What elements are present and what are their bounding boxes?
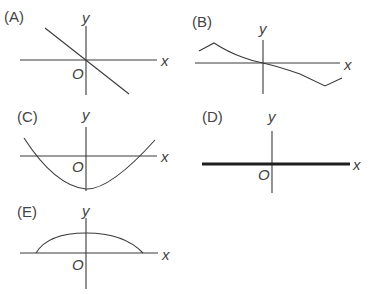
graph-c-label: (C) <box>17 108 38 125</box>
graph-c-origin-label: O <box>72 158 84 175</box>
graph-d-y-label: y <box>267 108 277 125</box>
graph-a-y-label: y <box>81 9 91 26</box>
graph-e-origin-label: O <box>72 256 84 273</box>
graph-b-curve <box>199 43 342 86</box>
graphs-figure: (A) y x O (B) y x (C) y x O (D) y x O (E… <box>0 0 373 294</box>
graph-a-origin-label: O <box>72 65 84 82</box>
graph-d-origin-label: O <box>258 166 270 183</box>
graph-b-x-label: x <box>343 56 352 73</box>
graph-b: (B) y x <box>192 13 352 94</box>
graph-a-x-label: x <box>160 52 169 69</box>
graph-b-label: (B) <box>192 13 212 30</box>
graph-e-label: (E) <box>17 203 37 220</box>
graph-e: (E) y x O <box>17 202 170 289</box>
graph-a: (A) y x O <box>4 8 169 95</box>
graph-c-y-label: y <box>81 106 91 123</box>
graph-c: (C) y x O <box>17 106 169 191</box>
graph-d-label: (D) <box>202 108 223 125</box>
graph-b-y-label: y <box>258 20 268 37</box>
graph-d: (D) y x O <box>202 108 361 193</box>
graph-d-x-label: x <box>352 156 361 173</box>
graph-c-curve <box>24 138 155 189</box>
graph-a-label: (A) <box>4 8 24 25</box>
graph-e-curve <box>36 233 143 253</box>
graph-a-line <box>45 28 129 94</box>
graph-c-x-label: x <box>160 148 169 165</box>
graph-e-y-label: y <box>81 202 91 219</box>
graph-e-x-label: x <box>161 246 170 263</box>
